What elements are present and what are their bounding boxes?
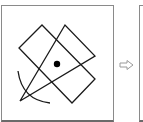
diagram-canvas	[0, 0, 143, 122]
arrow-right-icon	[120, 61, 133, 70]
center-dot	[54, 61, 60, 67]
